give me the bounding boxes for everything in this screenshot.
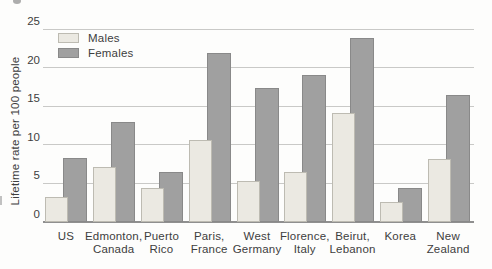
bar-males-new-zealand <box>428 159 451 222</box>
females-swatch <box>58 48 79 58</box>
y-tick-label-0: 0 <box>6 208 40 220</box>
y-tick-label-15: 15 <box>6 92 40 104</box>
x-label-line: Zealand <box>406 243 490 256</box>
gridline-25 <box>43 29 474 30</box>
y-tick-label-10: 10 <box>6 131 40 143</box>
legend-label-females: Females <box>88 47 134 59</box>
bar-males-us <box>45 197 68 222</box>
y-tick-label-25: 25 <box>6 15 40 27</box>
bar-males-beirut-lebanon <box>332 113 355 222</box>
legend-row-males: Males <box>58 33 134 43</box>
x-label-line: New <box>406 230 490 243</box>
y-tick-label-5: 5 <box>6 169 40 181</box>
x-label-line: Lebanon <box>311 243 395 256</box>
males-swatch <box>58 33 79 43</box>
x-label-new-zealand: NewZealand <box>406 230 490 256</box>
y-tick-label-20: 20 <box>6 54 40 66</box>
scan-artifact-left <box>0 196 2 205</box>
bar-males-florence-italy <box>284 172 307 222</box>
bar-males-west-germany <box>237 181 260 222</box>
lifetime-depression-rates-bar-chart: Lifetime rate per 100 people 0510152025U… <box>0 0 492 269</box>
legend-label-males: Males <box>88 32 120 44</box>
legend-row-females: Females <box>58 48 134 58</box>
scan-artifact-top <box>13 0 21 4</box>
legend: Males Females <box>58 33 134 63</box>
bar-males-korea <box>380 202 403 222</box>
bar-males-edmonton-canada <box>93 167 116 222</box>
bar-males-puerto-rico <box>141 188 164 222</box>
gridline-20 <box>43 67 474 68</box>
bar-males-paris-france <box>189 140 212 222</box>
